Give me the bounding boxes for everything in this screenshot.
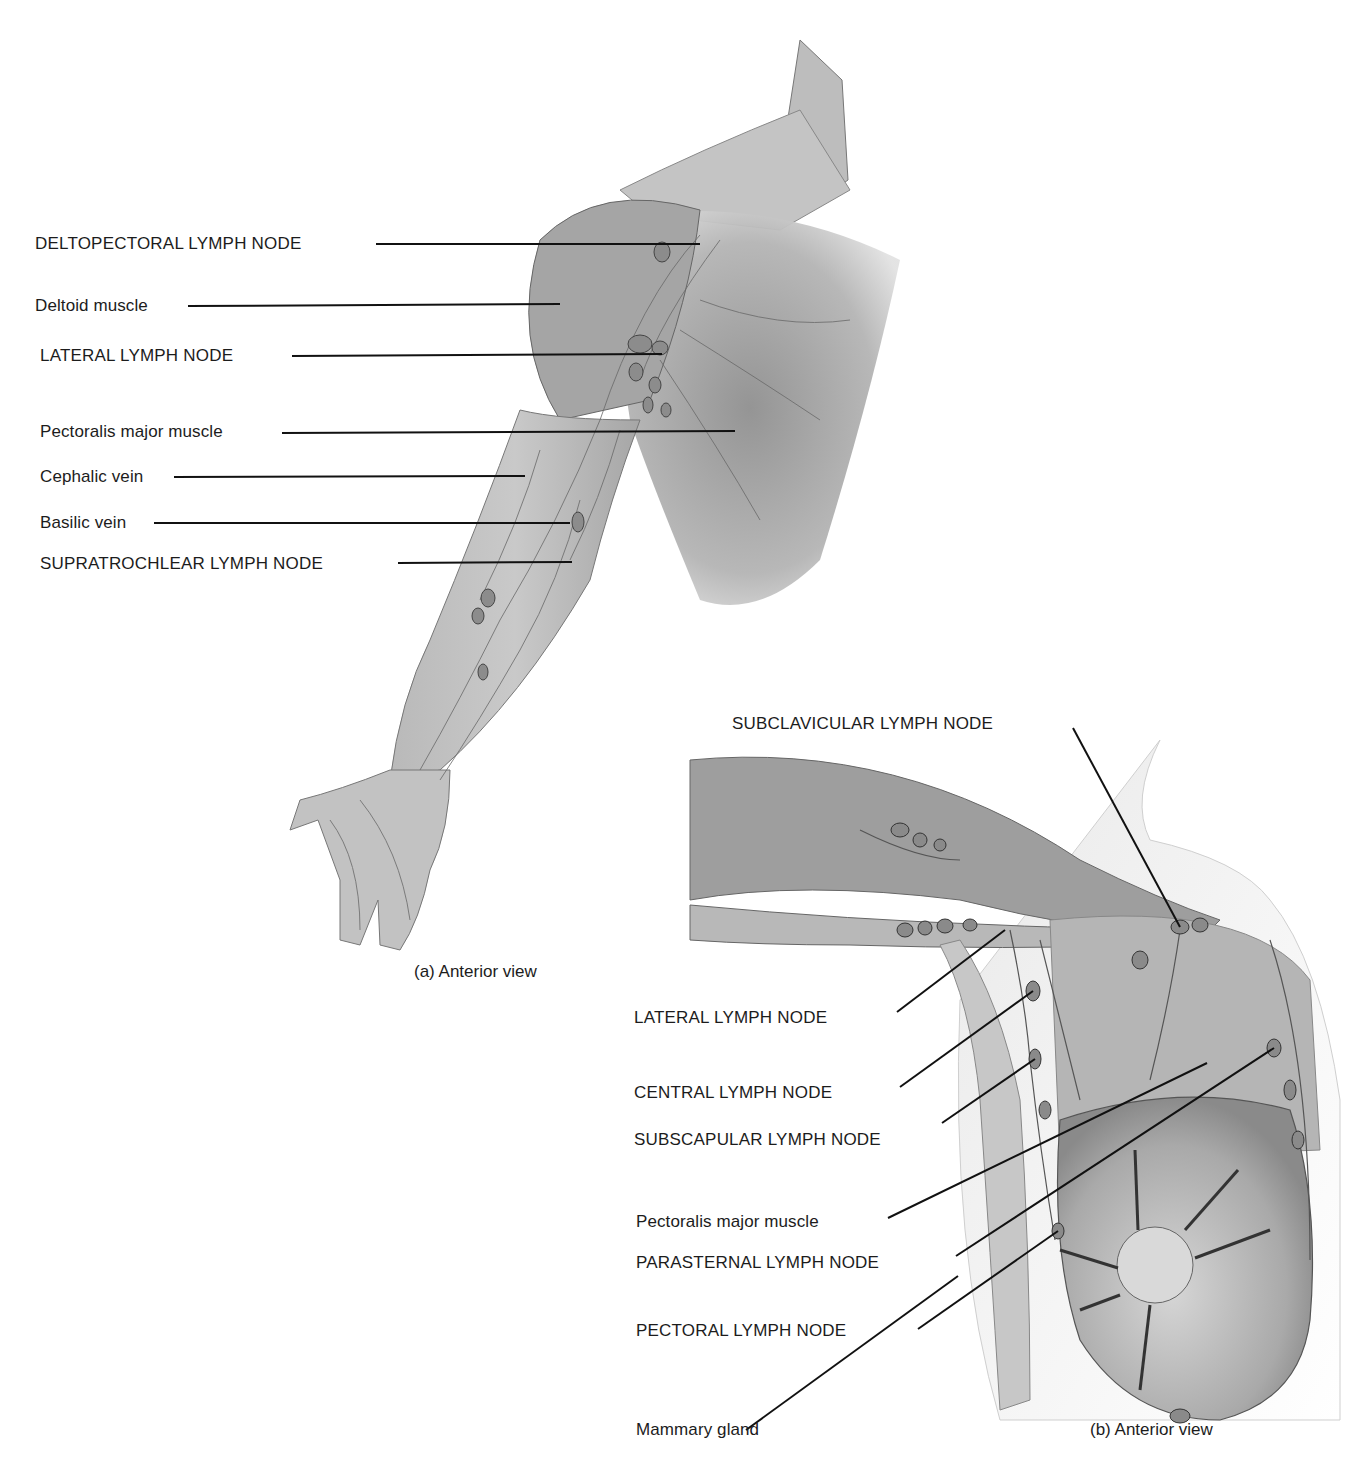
label-pectoralis-major-muscle-a: Pectoralis major muscle: [40, 422, 223, 442]
leader-line: [746, 1276, 958, 1430]
label-pectoral-lymph-node: PECTORAL LYMPH NODE: [636, 1321, 846, 1341]
label-lateral-lymph-node-b: LATERAL LYMPH NODE: [634, 1008, 827, 1028]
label-supratrochlear-lymph-node: SUPRATROCHLEAR LYMPH NODE: [40, 554, 323, 574]
label-central-lymph-node: CENTRAL LYMPH NODE: [634, 1083, 832, 1103]
label-basilic-vein: Basilic vein: [40, 513, 126, 533]
label-mammary-gland: Mammary gland: [636, 1420, 759, 1440]
label-cephalic-vein: Cephalic vein: [40, 467, 143, 487]
caption-panel-a: (a) Anterior view: [414, 962, 537, 982]
hand: [290, 770, 450, 950]
leader-line: [174, 476, 525, 477]
label-lateral-lymph-node-a: LATERAL LYMPH NODE: [40, 346, 233, 366]
caption-panel-b: (b) Anterior view: [1090, 1420, 1213, 1440]
label-deltopectoral-lymph-node: DELTOPECTORAL LYMPH NODE: [35, 234, 301, 254]
label-parasternal-lymph-node: PARASTERNAL LYMPH NODE: [636, 1253, 879, 1273]
label-deltoid-muscle: Deltoid muscle: [35, 296, 148, 316]
leader-line: [398, 562, 572, 563]
areola: [1117, 1227, 1193, 1303]
leader-line: [188, 304, 560, 306]
label-subclavicular-lymph-node: SUBCLAVICULAR LYMPH NODE: [732, 714, 993, 734]
label-subscapular-lymph-node: SUBSCAPULAR LYMPH NODE: [634, 1130, 881, 1150]
label-pectoralis-major-muscle-b: Pectoralis major muscle: [636, 1212, 819, 1232]
